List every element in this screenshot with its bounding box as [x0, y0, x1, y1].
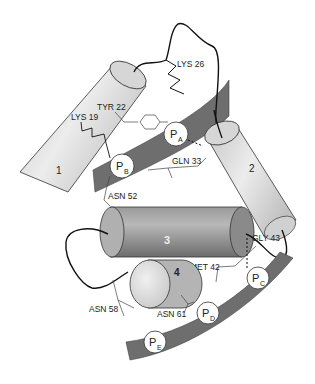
- label-lys26: LYS 26: [177, 59, 205, 69]
- label-lys19: LYS 19: [71, 112, 99, 122]
- pocket-d: P D: [197, 302, 219, 324]
- svg-text:P: P: [202, 307, 209, 319]
- label-tyr22: TYR 22: [97, 102, 126, 112]
- helix-3: 3: [100, 207, 254, 257]
- svg-text:P: P: [170, 128, 177, 140]
- pocket-a: P A: [164, 122, 188, 146]
- pocket-e: P E: [144, 331, 166, 353]
- svg-text:D: D: [210, 315, 215, 322]
- svg-text:C: C: [260, 280, 265, 287]
- label-asn52: ASN 52: [108, 191, 138, 201]
- svg-text:P: P: [149, 336, 156, 348]
- helix-1-label: 1: [56, 165, 62, 176]
- label-asn61: ASN 61: [157, 309, 187, 319]
- helix-2-label: 2: [249, 163, 255, 174]
- helix-4: 4: [130, 260, 202, 308]
- svg-text:P: P: [252, 272, 259, 284]
- svg-text:A: A: [178, 136, 183, 143]
- pocket-c: P C: [247, 267, 269, 289]
- label-asn58: ASN 58: [89, 304, 119, 314]
- svg-text:B: B: [124, 168, 129, 175]
- helix-3-label: 3: [164, 234, 170, 246]
- diagram-canvas: 1 LYS 26 TYR 22 LYS 19 P A P B GLN 33: [0, 0, 315, 384]
- label-gln33: GLN 33: [172, 156, 202, 166]
- svg-text:P: P: [116, 160, 123, 172]
- helix-4-label: 4: [174, 267, 180, 278]
- protein-diagram: 1 LYS 26 TYR 22 LYS 19 P A P B GLN 33: [0, 0, 315, 384]
- pocket-b: P B: [110, 154, 134, 178]
- svg-text:E: E: [157, 344, 162, 351]
- label-gly43: GLY 43: [252, 233, 280, 243]
